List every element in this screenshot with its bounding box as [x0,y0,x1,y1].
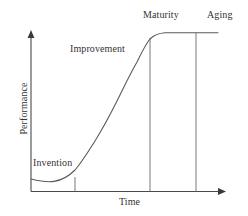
phase-label-invention: Invention [33,157,72,168]
x-axis [31,188,226,195]
chart-canvas [0,0,248,216]
s-curve-chart: Maturity Aging Improvement Invention Tim… [0,0,248,216]
x-axis-label: Time [119,196,140,207]
phase-label-improvement: Improvement [70,43,125,54]
phase-label-aging: Aging [207,9,233,20]
y-axis-label: Performance [18,71,29,147]
y-axis-arrowhead-icon [28,30,35,38]
x-axis-arrowhead-icon [218,188,226,195]
phase-label-maturity: Maturity [143,9,179,20]
